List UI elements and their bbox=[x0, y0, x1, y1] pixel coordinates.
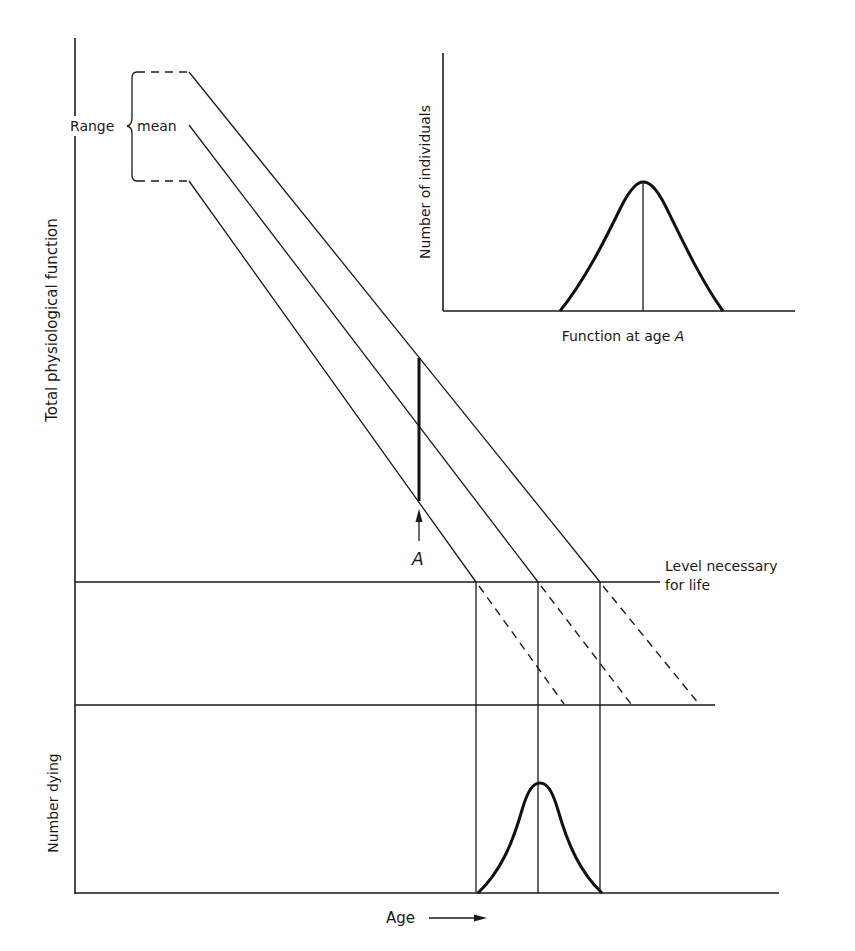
main-panel: Total physiological function Range mean … bbox=[43, 38, 777, 894]
lower-range-dashed-extension bbox=[479, 586, 564, 704]
arrow-right-icon bbox=[429, 915, 487, 922]
range-label: Range bbox=[70, 118, 114, 134]
mean-dashed-extension bbox=[541, 586, 631, 704]
inset-x-label: Function at age A bbox=[562, 328, 685, 344]
mean-label: mean bbox=[137, 118, 177, 134]
level-label-line1: Level necessary bbox=[665, 558, 777, 574]
diagram-canvas: Total physiological function Range mean … bbox=[0, 0, 855, 951]
age-a-label: A bbox=[411, 549, 424, 569]
deaths-y-label: Number dying bbox=[45, 753, 61, 853]
level-label-line2: for life bbox=[665, 577, 710, 593]
mean-line bbox=[189, 125, 538, 582]
arrow-up-icon bbox=[416, 509, 423, 541]
upper-range-line bbox=[189, 72, 600, 582]
deaths-bell-curve bbox=[478, 783, 602, 893]
deaths-panel: Number dying Age bbox=[45, 753, 779, 927]
inset-y-label: Number of individuals bbox=[417, 105, 433, 259]
inset-bell-curve bbox=[560, 182, 723, 311]
main-y-label: Total physiological function bbox=[43, 218, 61, 423]
inset-panel: Number of individuals Function at age A bbox=[417, 53, 795, 344]
age-x-label: Age bbox=[386, 909, 415, 927]
